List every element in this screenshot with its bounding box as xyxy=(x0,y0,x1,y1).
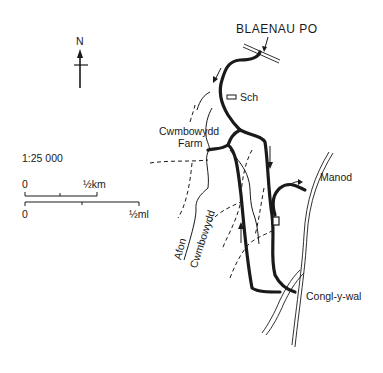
scale-ratio: 1:25 000 xyxy=(22,153,63,164)
scale-mi-start: 0 xyxy=(22,209,28,220)
river xyxy=(184,92,259,260)
route-map xyxy=(0,0,383,373)
walk-route xyxy=(208,52,305,292)
north-arrow-icon xyxy=(74,49,88,88)
stile-icon xyxy=(273,217,279,225)
school-icon xyxy=(227,95,236,99)
scale-km-end: ½km xyxy=(83,179,106,190)
place-farm-line1: Cwmbowydd xyxy=(159,126,219,137)
scale-bar-miles xyxy=(25,202,139,206)
pointer-arrow-icon xyxy=(262,37,268,52)
north-label: N xyxy=(76,36,84,47)
scale-mi-end: ½ml xyxy=(129,209,149,220)
place-congl: Congl-y-wal xyxy=(306,291,361,302)
scale-bar-km xyxy=(25,192,97,196)
place-farm-line2: Farm xyxy=(178,138,203,149)
place-school: Sch xyxy=(240,92,258,103)
place-manod: Manod xyxy=(320,172,352,183)
scale-km-start: 0 xyxy=(22,179,28,190)
place-blaenau: BLAENAU PO xyxy=(236,23,318,35)
